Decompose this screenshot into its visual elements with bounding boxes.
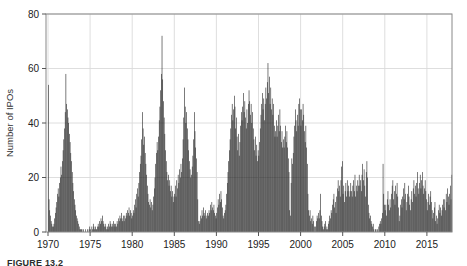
bar: [366, 172, 367, 232]
bar: [155, 178, 156, 233]
bar: [287, 148, 288, 232]
bar: [167, 180, 168, 232]
bar: [212, 207, 213, 232]
bar: [312, 224, 313, 232]
bar: [247, 123, 248, 232]
bar: [304, 131, 305, 232]
bar: [268, 63, 269, 232]
bar: [251, 104, 252, 232]
bar: [386, 205, 387, 232]
bar: [449, 205, 450, 232]
bar: [219, 194, 220, 232]
bar: [172, 191, 173, 232]
bar: [128, 213, 129, 232]
bar: [401, 199, 402, 232]
bar: [198, 199, 199, 232]
bar: [184, 88, 185, 232]
bar: [397, 183, 398, 232]
bar: [309, 216, 310, 232]
bar: [260, 128, 261, 232]
bar: [405, 183, 406, 232]
figure-caption-label: FIGURE 13.2: [7, 258, 63, 266]
bar: [65, 112, 66, 232]
bar: [438, 210, 439, 232]
bar: [129, 216, 130, 232]
bar: [237, 137, 238, 232]
ipo-bars: [48, 36, 452, 232]
bar: [295, 109, 296, 232]
bar: [404, 199, 405, 232]
bar: [59, 183, 60, 232]
bar: [362, 175, 363, 232]
bar: [159, 120, 160, 232]
bar: [355, 175, 356, 232]
bar: [256, 156, 257, 232]
bar: [325, 224, 326, 232]
bar: [135, 199, 136, 232]
bar: [73, 183, 74, 232]
bar: [142, 112, 143, 232]
bar: [261, 104, 262, 232]
bar: [393, 199, 394, 232]
bar: [156, 153, 157, 232]
bar: [140, 164, 141, 232]
bar: [153, 197, 154, 232]
bar: [364, 169, 365, 232]
bar: [423, 194, 424, 232]
bar: [254, 150, 255, 232]
bar: [432, 210, 433, 232]
y-tick-label: 20: [28, 172, 40, 183]
bar: [56, 207, 57, 232]
bar: [402, 207, 403, 232]
bar: [173, 202, 174, 232]
bar: [222, 207, 223, 232]
bar: [228, 172, 229, 232]
bar: [310, 221, 311, 232]
bar: [172, 197, 173, 232]
x-tick-label: 1985: [163, 239, 186, 250]
bar: [264, 120, 265, 232]
bar: [188, 150, 189, 232]
bar: [136, 194, 137, 232]
bar: [121, 213, 122, 232]
bar: [263, 98, 264, 232]
y-tick-label: 40: [28, 118, 40, 129]
bar: [331, 210, 332, 232]
x-tick-label: 2000: [289, 239, 312, 250]
bar: [292, 164, 293, 232]
bar: [303, 115, 304, 232]
bar: [174, 194, 175, 232]
bar: [321, 216, 322, 232]
bar: [199, 224, 200, 232]
bar: [299, 104, 300, 232]
bar: [420, 175, 421, 232]
bar: [367, 161, 368, 232]
bar: [219, 205, 220, 232]
bar: [119, 221, 120, 232]
bar: [54, 218, 55, 232]
bar: [207, 213, 208, 232]
bar: [58, 188, 59, 232]
x-tick-label: 1975: [79, 239, 102, 250]
bar: [169, 186, 170, 232]
bar: [61, 175, 62, 232]
bar: [104, 227, 105, 232]
bar: [278, 126, 279, 232]
bar: [333, 199, 334, 232]
bar: [146, 175, 147, 232]
bar: [347, 180, 348, 232]
bar: [403, 188, 404, 232]
bar: [139, 183, 140, 232]
bar: [162, 36, 163, 232]
bar: [297, 115, 298, 232]
bar: [191, 175, 192, 232]
bar: [421, 188, 422, 232]
bar: [382, 213, 383, 232]
bar: [437, 224, 438, 232]
x-tick-label: 1980: [121, 239, 144, 250]
bar: [282, 131, 283, 232]
bar: [444, 207, 445, 232]
bar: [296, 120, 297, 232]
bar: [78, 224, 79, 232]
bar: [68, 118, 69, 232]
